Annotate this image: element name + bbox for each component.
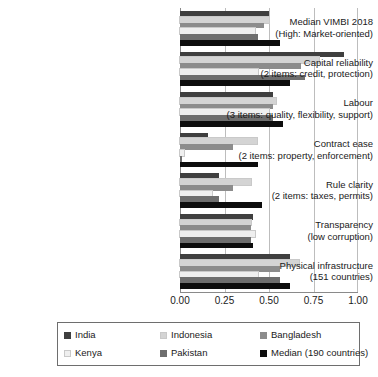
category-label-line2: (3 items: quality, flexibility, support) [195, 109, 373, 121]
bar-row [180, 243, 358, 249]
legend-item: India [64, 329, 96, 341]
category-label: Rule clarity(2 items: taxes, permits) [195, 179, 373, 202]
legend-swatch [160, 332, 167, 339]
category-label: Labour(3 items: quality, flexibility, su… [195, 97, 373, 120]
legend-label: Pakistan [171, 347, 207, 359]
category-label-line2: (2 items: credit, protection) [195, 68, 373, 80]
legend-item: Pakistan [160, 347, 207, 359]
legend-swatch [160, 350, 167, 357]
category-label-line1: Physical infrastructure [280, 260, 373, 271]
x-tick-label: 0.00 [160, 295, 200, 307]
category-label: Transparency(low corruption) [195, 219, 373, 242]
category-label-line1: Capital reliability [304, 57, 373, 68]
legend-label: Indonesia [171, 329, 212, 341]
category-label-line2: (2 items: taxes, permits) [195, 190, 373, 202]
category-label-line1: Contract ease [314, 138, 373, 149]
bar-row [180, 80, 358, 86]
bar [180, 202, 262, 208]
legend-label: Bangladesh [271, 329, 321, 341]
category-label-line2: (2 items: property, enforcement) [195, 150, 373, 162]
category-label-line2: (151 countries) [195, 271, 373, 283]
bar-row [180, 40, 358, 46]
bar [180, 162, 258, 168]
bar-row [180, 283, 358, 289]
category-label-line1: Transparency [315, 219, 373, 230]
category-label-line1: Median VIMBI 2018 [290, 16, 373, 27]
bar [180, 121, 283, 127]
legend-swatch [260, 332, 267, 339]
legend-label: Median (190 countries) [271, 347, 368, 359]
bar [180, 80, 290, 86]
x-tick-label: 0.75 [294, 295, 334, 307]
legend-item: Indonesia [160, 329, 212, 341]
category-label: Median VIMBI 2018(High: Market-oriented) [195, 16, 373, 39]
bar-row [180, 121, 358, 127]
legend-swatch [64, 350, 71, 357]
legend-item: Bangladesh [260, 329, 321, 341]
legend-item: Kenya [64, 347, 102, 359]
category-label-line2: (low corruption) [195, 231, 373, 243]
category-label: Capital reliability(2 items: credit, pro… [195, 57, 373, 80]
bar [180, 283, 290, 289]
category-label-line2: (High: Market-oriented) [195, 28, 373, 40]
x-tick-label: 0.25 [205, 295, 245, 307]
x-axis-line [180, 292, 358, 293]
category-label-line1: Rule clarity [326, 179, 373, 190]
bar-row [180, 202, 358, 208]
legend-swatch [260, 350, 267, 357]
chart-legend: IndiaIndonesiaBangladeshKenyaPakistanMed… [57, 322, 360, 366]
x-tick-label: 1.00 [338, 295, 378, 307]
bar [180, 40, 280, 46]
category-label: Contract ease(2 items: property, enforce… [195, 138, 373, 161]
legend-swatch [64, 332, 71, 339]
legend-item: Median (190 countries) [260, 347, 368, 359]
bar-row [180, 162, 358, 168]
bar [180, 243, 253, 249]
x-tick-label: 0.50 [249, 295, 289, 307]
legend-label: Kenya [75, 347, 102, 359]
category-label: Physical infrastructure(151 countries) [195, 260, 373, 283]
legend-label: India [75, 329, 96, 341]
category-label-line1: Labour [343, 97, 373, 108]
